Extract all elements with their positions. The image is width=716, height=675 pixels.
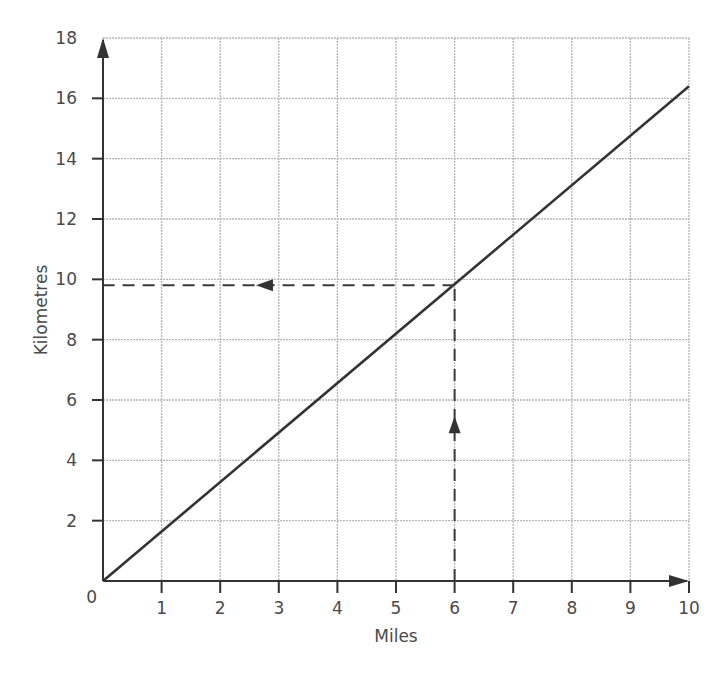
y-axis-title: Kilometres [31, 265, 51, 356]
axes [92, 38, 689, 593]
x-tick-label: 1 [156, 598, 167, 618]
y-tick-label: 2 [66, 511, 77, 531]
y-tick-label: 12 [55, 209, 77, 229]
x-tick-label: 6 [449, 598, 460, 618]
x-tick-label: 9 [625, 598, 636, 618]
x-tick-label: 7 [508, 598, 519, 618]
y-tick-label: 16 [55, 88, 77, 108]
y-tick-label: 18 [55, 28, 77, 48]
tick-labels: 12345678910246810121416180 [55, 28, 699, 618]
y-tick-label: 6 [66, 390, 77, 410]
x-tick-label: 4 [332, 598, 343, 618]
x-tick-label: 2 [215, 598, 226, 618]
origin-label: 0 [86, 587, 97, 607]
x-tick-label: 8 [566, 598, 577, 618]
x-tick-label: 3 [273, 598, 284, 618]
arrow-left-icon [256, 279, 273, 291]
y-tick-label: 8 [66, 330, 77, 350]
y-tick-label: 10 [55, 269, 77, 289]
conversion-graph: 12345678910246810121416180 Miles Kilomet… [0, 0, 716, 675]
y-tick-label: 14 [55, 149, 77, 169]
x-tick-label: 10 [678, 598, 700, 618]
arrow-up-icon [449, 416, 461, 433]
y-axis-arrow-icon [97, 38, 109, 58]
x-axis-arrow-icon [669, 575, 689, 587]
x-tick-label: 5 [391, 598, 402, 618]
x-axis-title: Miles [374, 626, 418, 646]
grid-lines [103, 38, 689, 581]
y-tick-label: 4 [66, 450, 77, 470]
